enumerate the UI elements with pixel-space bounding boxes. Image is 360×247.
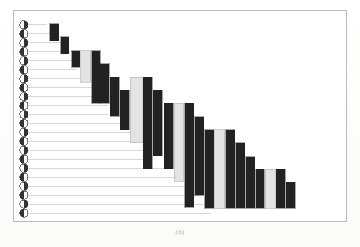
bar-dark [246,157,255,209]
row-marker [20,93,28,101]
bar-dark [110,77,119,116]
row-marker [20,57,28,65]
figure-panel: (b) [0,0,360,247]
bar-dark [92,51,101,104]
bar-light [81,51,91,83]
row-marker [20,30,28,38]
bar-light [265,169,275,208]
row-marker [20,48,28,56]
cascade-chart-canvas [14,11,346,221]
bar-dark [276,169,285,208]
row-marker [20,39,28,47]
bar-dark [195,117,204,195]
bar-light [174,103,184,181]
bars-group [50,24,296,208]
row-marker [20,75,28,83]
row-marker [20,182,28,190]
bar-dark [164,103,173,168]
row-marker [20,110,28,118]
row-marker [20,137,28,145]
plot-frame [13,10,347,222]
figure-caption: (b) [0,228,360,237]
bar-dark [143,77,152,168]
row-marker [20,84,28,92]
row-marker [20,200,28,208]
row-marker [20,119,28,127]
row-marker [20,21,28,29]
bar-light [215,130,225,208]
markers-group [20,21,28,217]
bar-dark [205,130,214,208]
row-marker [20,155,28,163]
row-marker [20,66,28,74]
bar-dark [226,130,235,208]
bar-dark [120,90,129,130]
bar-dark [72,51,80,68]
row-marker [20,209,28,217]
row-marker [20,173,28,181]
row-marker [20,146,28,154]
bar-dark [286,182,295,208]
bar-light [130,77,142,142]
bar-dark [236,143,245,208]
row-marker [20,101,28,109]
row-marker [20,191,28,199]
bar-dark [185,103,194,207]
bar-dark [153,90,162,155]
bar-dark [100,64,109,104]
row-marker [20,128,28,136]
bar-dark [256,169,265,208]
bar-dark [61,37,69,54]
row-marker [20,164,28,172]
bar-dark [50,24,59,41]
